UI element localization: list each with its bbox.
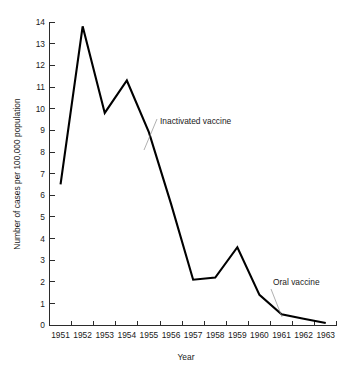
x-tick-labels: 1951 1952 1953 1954 1955 1956 1957 1958 …	[51, 330, 335, 340]
x-tick-label: 1958	[206, 330, 225, 340]
y-tick-label: 7	[40, 169, 45, 179]
x-tick-label: 1956	[162, 330, 181, 340]
y-tick-label: 11	[36, 82, 45, 92]
x-axis-title: Year	[178, 352, 195, 362]
x-tick-label: 1953	[95, 330, 114, 340]
y-axis-title: Number of cases per 100,000 population	[12, 98, 22, 250]
x-tick-label: 1952	[73, 330, 92, 340]
y-tick-label: 3	[40, 255, 45, 265]
x-tick-label: 1959	[228, 330, 247, 340]
leader-line-oral	[271, 289, 282, 317]
x-tick-label: 1963	[316, 330, 335, 340]
y-tick-labels: 14 13 12 11 10 9 8 7 6 5 4 3 2 1 0	[36, 17, 46, 330]
y-tick-label: 4	[40, 234, 45, 244]
x-tick-label: 1951	[51, 330, 70, 340]
y-tick-label: 12	[36, 60, 46, 70]
x-tick-label: 1957	[184, 330, 203, 340]
y-tick-label: 9	[40, 125, 45, 135]
y-tick-label: 0	[40, 320, 45, 330]
line-chart-canvas: 14 13 12 11 10 9 8 7 6 5 4 3 2 1 0	[0, 0, 348, 379]
x-tick-label: 1960	[250, 330, 269, 340]
annotation-label-oral: Oral vaccine	[273, 277, 320, 287]
y-tick-label: 14	[36, 17, 46, 27]
annotation-label-inactivated: Inactivated vaccine	[160, 116, 232, 126]
annotation-inactivated-vaccine: Inactivated vaccine	[144, 116, 232, 150]
y-tick-label: 2	[40, 277, 45, 287]
y-tick-label: 6	[40, 190, 45, 200]
x-tick-label: 1962	[294, 330, 313, 340]
y-tick-label: 10	[36, 104, 46, 114]
chart-figure: 14 13 12 11 10 9 8 7 6 5 4 3 2 1 0	[0, 0, 348, 379]
y-tick-label: 5	[40, 212, 45, 222]
x-tick-label: 1954	[117, 330, 136, 340]
y-tick-label: 8	[40, 147, 45, 157]
y-tick-marks	[50, 22, 55, 325]
x-tick-label: 1955	[140, 330, 159, 340]
y-tick-label: 13	[36, 39, 46, 49]
x-tick-marks	[72, 321, 337, 326]
x-tick-label: 1961	[272, 330, 291, 340]
y-tick-label: 1	[40, 299, 45, 309]
